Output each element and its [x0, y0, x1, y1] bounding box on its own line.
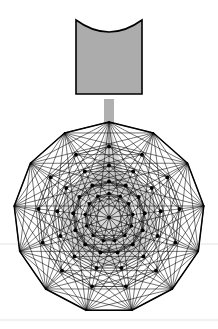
vertex-dot-ring-3-2 [150, 186, 154, 190]
vertex-dot-ring-4-1 [124, 184, 128, 188]
vertex-dot-ring-3-1 [131, 169, 135, 173]
vertex-dot-ring-5-1 [118, 194, 122, 198]
vertex-dot-ring-4-8 [83, 242, 87, 246]
vertex-dot-ring-4-9 [73, 228, 77, 232]
vertex-dot-ring-3-12 [83, 169, 87, 173]
vertex-dot-ring-5-12 [96, 194, 100, 198]
vertex-dot-ring-2-9 [41, 241, 45, 245]
vertex-dot-ring-3-4 [156, 234, 160, 238]
vertex-dot-ring-4-12 [90, 184, 94, 188]
vertex-dot-ring-5-3 [131, 213, 135, 217]
vertex-dot-ring-3-0 [107, 164, 111, 168]
vertex-dot-ring-5-7 [101, 239, 105, 243]
vertex-dot-ring-3-11 [64, 186, 68, 190]
vertex-dot-ring-5-0 [107, 192, 111, 196]
vertex-dot-ring-2-11 [49, 175, 53, 179]
vertex-dot-ring-5-4 [130, 224, 134, 228]
vertex-dot-ring-2-6 [124, 284, 128, 288]
vertex-dot-ring-3-7 [95, 266, 99, 270]
vertex-dot-ring-5-10 [83, 213, 87, 217]
vertex-dot-ring-2-10 [37, 207, 41, 211]
figure-root [0, 0, 218, 329]
vertex-dot-ring-4-0 [107, 180, 111, 184]
vertex-dot-ring-2-4 [173, 241, 177, 245]
vertex-dot-ring-3-10 [55, 209, 59, 213]
vertex-dot-ring-2-3 [177, 207, 181, 211]
vertex-dot-ring-2-12 [74, 153, 78, 157]
vertex-dot-ring-4-2 [137, 195, 141, 199]
vertex-dot-ring-5-5 [123, 234, 127, 238]
vertex-dot-ring-5-8 [91, 234, 95, 238]
vertex-dot-ring-4-4 [141, 228, 145, 232]
geometry-diagram [0, 0, 218, 329]
vertex-dot-ring-3-9 [58, 234, 62, 238]
vertex-dot-ring-4-3 [143, 211, 147, 215]
vertex-dot-ring-2-1 [140, 153, 144, 157]
vertex-dot-ring-5-11 [87, 202, 91, 206]
vertex-dot-center-0 [107, 216, 111, 220]
vertex-dot-ring-3-6 [119, 266, 123, 270]
vertex-dot-ring-5-6 [113, 239, 117, 243]
vertex-dot-ring-2-2 [165, 175, 169, 179]
vertex-dot-ring-4-6 [116, 250, 120, 254]
vertex-dot-ring-2-8 [60, 269, 64, 273]
vertex-dot-ring-2-7 [90, 284, 94, 288]
vertex-dot-ring-4-11 [77, 195, 81, 199]
vertex-dot-ring-4-7 [98, 250, 102, 254]
vertex-dot-ring-4-5 [131, 242, 135, 246]
vertex-dot-ring-3-8 [73, 254, 77, 258]
connector-stem [104, 99, 114, 124]
vertex-dot-ring-5-2 [127, 202, 131, 206]
vertex-dot-ring-4-10 [71, 211, 75, 215]
vertex-dot-ring-5-9 [85, 224, 89, 228]
vertex-dot-ring-2-0 [107, 145, 111, 149]
vertex-dot-ring-2-5 [154, 269, 158, 273]
vertex-dot-ring-3-5 [141, 254, 145, 258]
vertex-dot-ring-3-3 [159, 209, 163, 213]
